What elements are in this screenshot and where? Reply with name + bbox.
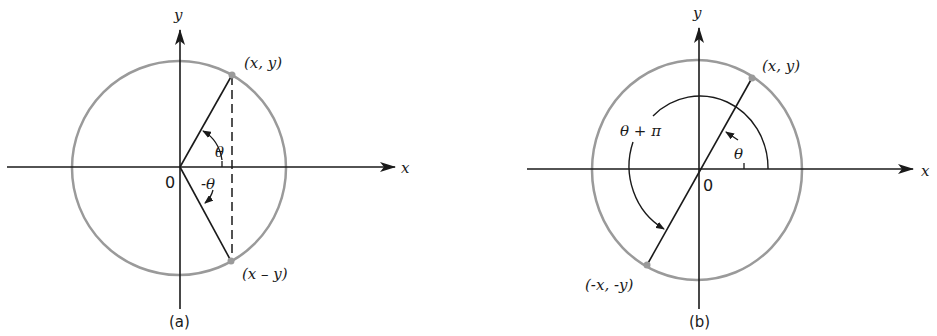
angle-arc-large-b-bottom [629,142,664,229]
x-axis-label-b: x [921,162,930,180]
point-upper-label-b: (x, y) [762,57,800,75]
angle-label-large-b: θ + π [620,122,662,140]
origin-label-b: 0 [703,176,713,195]
figure-b: y x 0 (x, y) (-x, -y) θ θ + π (b) [527,4,930,331]
figure-a: y x 0 (x, y) (x – y) θ -θ (a) [7,6,410,331]
angle-label-upper-a: θ [215,143,224,161]
angle-arc-large-b-top [653,96,768,169]
radius-upper-a [180,75,232,167]
point-lower-label-a: (x – y) [242,265,288,283]
caption-a: (a) [169,313,190,331]
x-axis-label-a: x [401,159,410,177]
point-lower-a [228,258,235,265]
point-upper-b [749,75,756,82]
point-upper-a [229,72,236,79]
angle-label-small-b: θ [734,145,743,163]
unit-circle-b [592,60,802,280]
origin-label-a: 0 [165,173,175,192]
angle-arrow-small-b [726,132,738,140]
point-lower-b [644,262,651,269]
caption-b: (b) [689,313,710,331]
angle-label-lower-a: -θ [201,175,215,193]
y-axis-label-b: y [692,4,702,22]
y-axis-label-a: y [173,6,183,24]
unit-circle-a [72,61,286,275]
point-upper-label-a: (x, y) [244,54,282,72]
point-lower-label-b: (-x, -y) [585,276,633,294]
diagram-canvas: y x 0 (x, y) (x – y) θ -θ (a) y x 0 (x, … [0,0,937,336]
